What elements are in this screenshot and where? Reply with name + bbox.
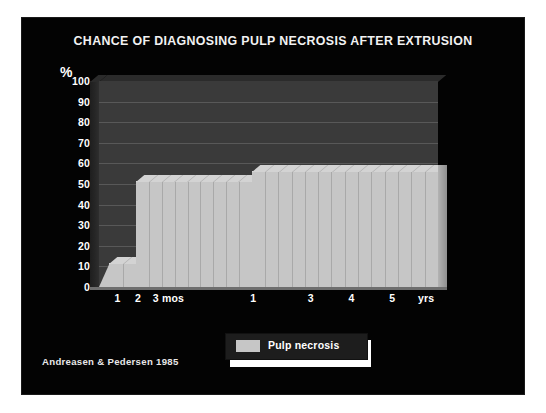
segment-divider — [305, 172, 306, 287]
y-axis-tick: 90 — [48, 96, 90, 108]
y-axis-tick: 20 — [48, 240, 90, 252]
segment-divider — [385, 172, 386, 287]
segment-divider — [200, 182, 201, 287]
legend: Pulp necrosis — [225, 333, 371, 367]
segment-divider — [226, 182, 227, 287]
legend-swatch-pulp-necrosis — [236, 340, 260, 352]
legend-label-pulp-necrosis: Pulp necrosis — [268, 339, 339, 351]
segment-divider — [411, 172, 412, 287]
segment-divider-top — [162, 175, 171, 182]
segment-divider-top — [371, 165, 380, 172]
segment-divider — [188, 182, 189, 287]
area-step — [109, 263, 136, 287]
segment-divider — [358, 172, 359, 287]
y-axis-tick: 100 — [48, 75, 90, 87]
segment-divider-top — [411, 165, 420, 172]
segment-divider-top — [292, 165, 301, 172]
segment-divider-top — [331, 165, 340, 172]
segment-divider-top — [188, 175, 197, 182]
plot-baseline — [90, 287, 447, 290]
segment-divider — [175, 182, 176, 287]
legend-box: Pulp necrosis — [225, 333, 368, 360]
slide-canvas: CHANCE OF DIAGNOSING PULP NECROSIS AFTER… — [22, 18, 524, 394]
segment-divider — [398, 172, 399, 287]
y-axis-tick: 80 — [48, 116, 90, 128]
segment-divider-top — [398, 165, 407, 172]
x-axis-tick: 4 — [349, 292, 355, 304]
segment-divider-top — [305, 165, 314, 172]
x-axis-ticks: 123 mos1345yrs — [22, 292, 524, 312]
x-axis-tick: 1 — [115, 292, 121, 304]
plot-left-wall-3d — [90, 81, 99, 287]
x-axis-tick: 3 — [308, 292, 314, 304]
segment-divider — [331, 172, 332, 287]
segment-divider — [213, 182, 214, 287]
segment-divider-top — [345, 165, 354, 172]
x-axis-tick: 1 — [250, 292, 256, 304]
y-axis-tick: 40 — [48, 199, 90, 211]
x-axis-tick: 3 mos — [153, 292, 184, 304]
area-step — [136, 181, 251, 287]
y-axis-tick: 30 — [48, 219, 90, 231]
y-axis-tick: 50 — [48, 178, 90, 190]
segment-divider-top — [265, 165, 274, 172]
x-axis-tick: yrs — [418, 292, 434, 304]
segment-divider-top — [213, 175, 222, 182]
area-series-pulp-necrosis — [99, 81, 447, 287]
segment-divider-top — [123, 257, 132, 264]
segment-divider-top — [358, 165, 367, 172]
segment-divider — [318, 172, 319, 287]
segment-divider — [278, 172, 279, 287]
y-axis-tick: 60 — [48, 157, 90, 169]
segment-divider-top — [200, 175, 209, 182]
area-origin-shoulder — [99, 264, 109, 287]
area-step — [252, 171, 438, 287]
segment-divider — [345, 172, 346, 287]
segment-divider — [239, 182, 240, 287]
y-axis-ticks: 1009080706050403020100 — [44, 18, 90, 394]
x-axis-tick: 5 — [389, 292, 395, 304]
segment-divider-top — [149, 175, 158, 182]
segment-divider — [162, 182, 163, 287]
segment-divider-top — [226, 175, 235, 182]
segment-divider — [371, 172, 372, 287]
citation-text: Andreasen & Pedersen 1985 — [42, 356, 179, 367]
segment-divider — [149, 182, 150, 287]
y-axis-tick: 70 — [48, 137, 90, 149]
area-step-top-3d — [136, 175, 260, 182]
segment-divider — [123, 264, 124, 287]
area-right-face-3d — [438, 165, 447, 287]
segment-divider — [425, 172, 426, 287]
x-axis-tick: 2 — [135, 292, 141, 304]
area-step-top-3d — [252, 165, 447, 172]
segment-divider-top — [278, 165, 287, 172]
segment-divider-top — [175, 175, 184, 182]
segment-divider — [292, 172, 293, 287]
segment-divider — [265, 172, 266, 287]
segment-divider-top — [425, 165, 434, 172]
segment-divider-top — [318, 165, 327, 172]
segment-divider-top — [385, 165, 394, 172]
y-axis-tick: 10 — [48, 260, 90, 272]
segment-divider-top — [239, 175, 248, 182]
